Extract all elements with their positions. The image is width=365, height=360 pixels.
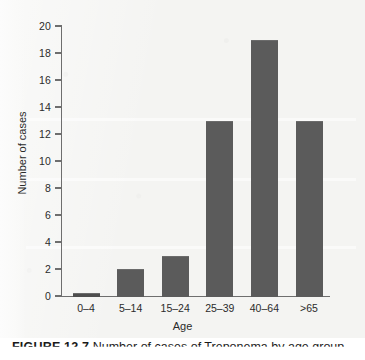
figure-panel: Number of cases 02468101214161820 0–45–1…: [0, 0, 365, 338]
x-axis-line: [61, 296, 330, 297]
y-axis-tick-label: 6: [11, 210, 51, 221]
y-axis-tick: [55, 106, 61, 107]
y-axis-tick: [55, 25, 61, 26]
y-axis-tick-label: 14: [11, 102, 51, 113]
figure-caption-label: FIGURE 12.7: [12, 340, 89, 354]
bar: [251, 40, 278, 298]
bar: [162, 256, 189, 298]
figure-caption: FIGURE 12.7 Number of cases of Treponema…: [12, 340, 352, 354]
y-axis-tick: [55, 187, 61, 188]
figure-caption-body: Number of cases of Treponema by age grou…: [93, 340, 345, 354]
y-axis-tick: [55, 79, 61, 80]
bar: [73, 293, 100, 297]
y-axis-tick: [55, 52, 61, 53]
y-axis-tick: [55, 295, 61, 296]
y-axis-tick-label: 10: [11, 156, 51, 167]
y-axis-tick: [55, 241, 61, 242]
y-axis-tick-label: 12: [11, 129, 51, 140]
y-axis-tick-label: 2: [11, 264, 51, 275]
figure-screenshot: Number of cases 02468101214161820 0–45–1…: [0, 0, 365, 360]
bar: [117, 269, 144, 297]
y-axis-line: [61, 25, 62, 297]
bar: [296, 121, 323, 298]
x-axis-tick-label: >65: [279, 303, 339, 314]
y-axis-tick-label: 20: [11, 21, 51, 32]
y-axis-tick-label: 18: [11, 48, 51, 59]
y-axis-tick: [55, 214, 61, 215]
y-axis-tick: [55, 133, 61, 134]
bar: [206, 121, 233, 298]
x-axis-title: Age: [0, 320, 365, 332]
y-axis-tick: [55, 268, 61, 269]
figure-caption-strip: FIGURE 12.7 Number of cases of Treponema…: [0, 338, 365, 360]
y-axis-tick-label: 0: [11, 291, 51, 302]
y-axis-tick-label: 16: [11, 75, 51, 86]
y-axis-tick: [55, 160, 61, 161]
y-axis-tick-label: 4: [11, 237, 51, 248]
bar-chart-plot: Number of cases 02468101214161820 0–45–1…: [0, 0, 365, 338]
y-axis-tick-label: 8: [11, 183, 51, 194]
